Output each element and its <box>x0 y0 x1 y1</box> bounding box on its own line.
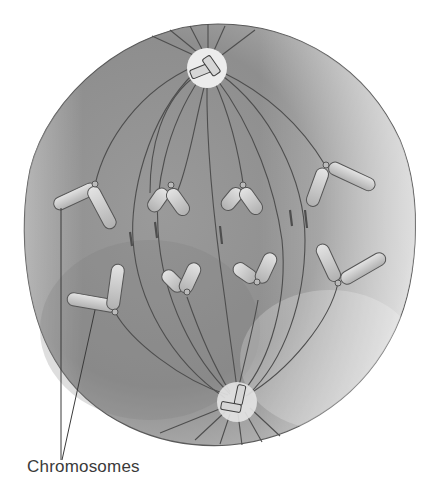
centrosome-top <box>187 48 227 88</box>
mitosis-cell-diagram <box>0 0 442 484</box>
chromosomes-label: Chromosomes <box>27 457 140 477</box>
centrosome-bottom <box>217 382 257 422</box>
